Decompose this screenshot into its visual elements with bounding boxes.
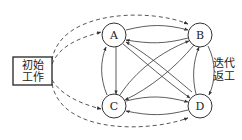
edge-d-to-b (194, 47, 199, 94)
start-box: 初始 工作 (13, 57, 52, 85)
node-b: B (188, 23, 212, 47)
start-box-line1: 初始 (22, 58, 44, 72)
start-box-line2: 工作 (22, 71, 44, 84)
iterative-rework-diagram: A B C D 初始 工作 迭代 返工 (0, 0, 242, 140)
edge-b-to-a (126, 38, 188, 43)
edge-start-to-c (52, 80, 101, 109)
edge-start-to-a (52, 32, 101, 64)
edge-c-to-d (126, 97, 188, 102)
side-label-line1: 迭代 (213, 57, 235, 70)
edge-c-to-a (102, 47, 107, 95)
edge-d-to-c (126, 110, 188, 115)
iteration-rework-label: 迭代 返工 (213, 57, 235, 83)
edge-c-to-b (120, 41, 189, 95)
node-c: C (102, 94, 126, 118)
node-a: A (102, 23, 126, 47)
edge-a-to-d (123, 44, 190, 98)
node-b-label: B (196, 29, 204, 42)
node-c-label: C (110, 100, 118, 113)
side-label-line2: 返工 (213, 70, 235, 83)
edge-b-to-c (125, 45, 194, 100)
node-d-label: D (196, 100, 205, 113)
node-d: D (188, 94, 212, 118)
node-a-label: A (109, 29, 119, 42)
edge-d-to-a (126, 42, 192, 92)
edge-a-to-b (126, 26, 188, 31)
